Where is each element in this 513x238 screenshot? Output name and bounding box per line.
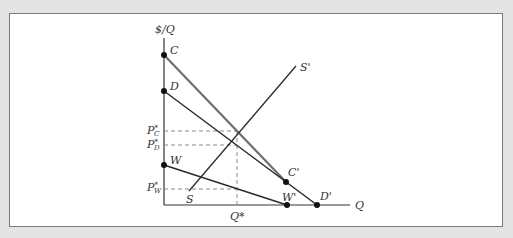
label-d-prime: D' xyxy=(319,190,332,203)
point-w xyxy=(161,162,167,168)
demand-curve-d xyxy=(164,91,317,205)
label-s: S xyxy=(186,193,194,206)
label-s-prime: S' xyxy=(300,61,311,74)
point-c-prime xyxy=(283,179,289,185)
demand-curve-c xyxy=(164,55,286,182)
label-p-w: P*W xyxy=(146,181,162,195)
supply-demand-diagram: $/Q Q C D W C' W' D' S S' P*C P*D P*W Q* xyxy=(0,0,513,238)
y-axis-label: $/Q xyxy=(155,23,175,36)
x-axis-label: Q xyxy=(355,199,364,212)
demand-curve-w xyxy=(164,165,287,205)
label-w-prime: W' xyxy=(282,191,296,204)
label-p-c: P*C xyxy=(146,124,160,138)
label-q-star: Q* xyxy=(230,210,245,223)
label-d: D xyxy=(169,80,179,93)
label-p-d: P*D xyxy=(146,138,160,152)
supply-curve xyxy=(189,66,296,191)
label-w: W xyxy=(170,154,183,167)
label-c: C xyxy=(170,44,179,57)
point-d xyxy=(161,88,167,94)
label-c-prime: C' xyxy=(288,166,299,179)
point-c xyxy=(161,52,167,58)
